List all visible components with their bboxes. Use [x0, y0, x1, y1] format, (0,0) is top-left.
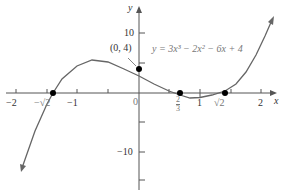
curve-arrow-bottom-icon: [20, 164, 26, 172]
point-neg-root2: [50, 90, 56, 96]
y-ticks: [139, 33, 145, 180]
x-tick-label-1: 1: [197, 98, 202, 108]
x-label-neg-root2: −√2: [34, 98, 50, 108]
y-tick-label-neg10: −10: [117, 147, 133, 157]
x-label-two-thirds-den: 3: [176, 104, 180, 113]
x-label-root2: √2: [214, 98, 225, 108]
y-axis-arrow-icon: [136, 6, 142, 13]
equation-label: y = 3x³ − 2x² − 6x + 4: [152, 44, 243, 54]
point-0-4: [136, 66, 142, 72]
x-tick-label-neg2: −2: [6, 98, 17, 108]
point-label-0-4: (0, 4): [110, 43, 132, 53]
x-tick-label-2: 2: [258, 98, 263, 108]
point-label-leader: [128, 58, 136, 66]
y-tick-label-10: 10: [124, 28, 134, 38]
y-axis-label: y: [128, 3, 132, 13]
x-axis-label: x: [274, 96, 278, 106]
curve-arrow-top-icon: [268, 16, 274, 25]
x-label-two-thirds-num: 2: [176, 96, 180, 104]
x-tick-label-0: 0: [133, 97, 138, 107]
point-root2: [222, 90, 228, 96]
x-tick-label-neg1: −1: [67, 98, 78, 108]
